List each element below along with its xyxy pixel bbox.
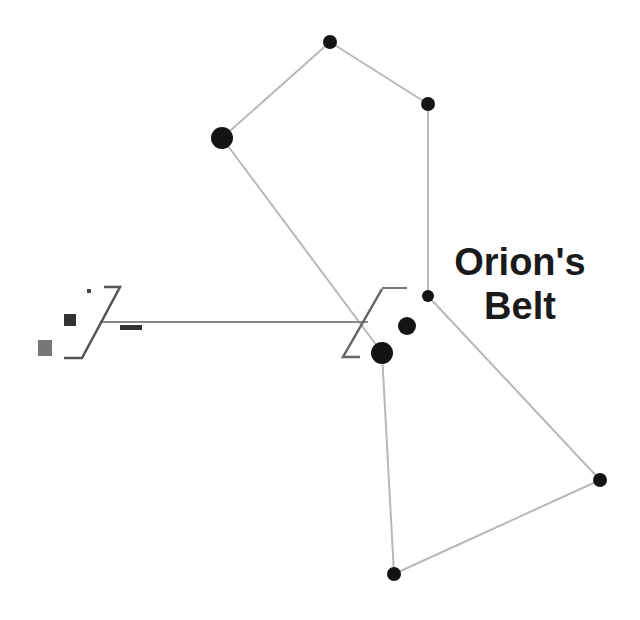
- orions-belt-label: Orion's Belt: [440, 240, 600, 328]
- star-icon: [211, 127, 233, 149]
- star-icon: [387, 567, 401, 581]
- star-icon: [323, 35, 337, 49]
- star-icon: [421, 97, 435, 111]
- label-line-1: Orion's: [440, 240, 600, 284]
- label-line-2: Belt: [440, 284, 600, 328]
- star-icon: [371, 342, 393, 364]
- zoom-callout: [38, 287, 406, 358]
- star-icon: [593, 473, 607, 487]
- star-icon: [398, 317, 416, 335]
- star-icon: [422, 290, 434, 302]
